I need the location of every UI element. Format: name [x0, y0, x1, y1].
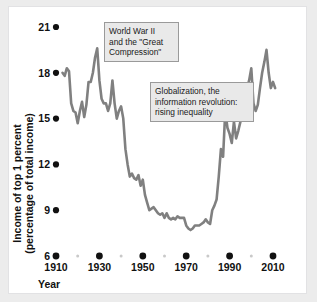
y-axis-title-line: Income of top 1 percent	[11, 124, 23, 243]
annotation-line: Globalization, the	[155, 86, 249, 97]
y-axis-title: Income of top 1 percent(percentage of to…	[11, 113, 35, 254]
x-tick-minor-marker	[250, 255, 253, 258]
annotation-globalization: Globalization, the information revolutio…	[150, 82, 254, 122]
annotation-line: and the "Great	[109, 37, 174, 48]
x-tick-label: 1970	[175, 261, 199, 273]
x-axis-title: Year	[38, 278, 60, 290]
x-axis-ticks: 191019301950197019902010	[44, 253, 285, 273]
x-tick-label: 1990	[218, 261, 242, 273]
y-tick-marker	[53, 161, 59, 167]
x-axis-title: Year	[38, 278, 60, 290]
annotation-world-war-two: World War II and the "Great Compression"	[104, 22, 179, 62]
y-tick-marker	[53, 70, 59, 76]
x-tick-marker	[53, 253, 60, 260]
x-tick-label: 2010	[261, 261, 285, 273]
x-tick-marker	[139, 253, 146, 260]
x-tick-label: 1910	[44, 261, 68, 273]
figure: 6912151821 191019301950197019902010 Inco…	[0, 0, 317, 302]
data-series-group	[63, 48, 276, 230]
x-tick-marker	[270, 253, 277, 260]
x-tick-marker	[183, 253, 190, 260]
series-line	[63, 48, 276, 230]
x-tick-marker	[96, 253, 103, 260]
x-tick-minor-marker	[206, 255, 209, 258]
x-tick-label: 1930	[88, 261, 112, 273]
annotation-line: rising inequality	[155, 107, 249, 118]
y-tick-marker	[53, 207, 59, 213]
x-tick-marker	[226, 253, 233, 260]
x-tick-label: 1950	[131, 261, 155, 273]
y-tick-label: 9	[44, 204, 50, 216]
x-tick-minor-marker	[120, 255, 123, 258]
y-axis-ticks: 6912151821	[38, 21, 59, 262]
y-tick-label: 6	[44, 250, 50, 262]
y-tick-label: 18	[38, 67, 50, 79]
y-tick-marker	[53, 24, 59, 30]
x-tick-minor-marker	[163, 255, 166, 258]
y-tick-marker	[53, 116, 59, 122]
annotation-line: Compression"	[109, 47, 174, 58]
y-tick-label: 15	[38, 112, 50, 124]
annotation-line: information revolution:	[155, 97, 249, 108]
y-tick-label: 21	[38, 21, 50, 33]
x-tick-minor-marker	[76, 255, 79, 258]
annotation-line: World War II	[109, 26, 174, 37]
y-tick-label: 12	[38, 158, 50, 170]
y-axis-title-line: (percentage of total income)	[23, 113, 35, 254]
